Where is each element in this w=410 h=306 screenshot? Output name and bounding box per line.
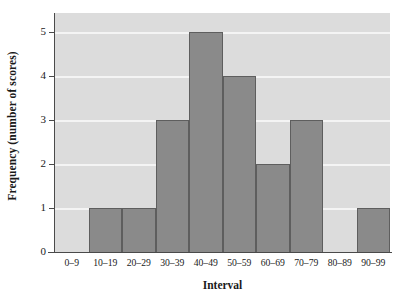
y-tick-mark: [49, 32, 54, 33]
x-axis-title: Interval: [55, 279, 390, 291]
bar-30-39: [156, 120, 190, 252]
y-tick-mark: [49, 76, 54, 77]
x-tick-label: 70–79: [290, 257, 324, 268]
bar-50-59: [223, 76, 257, 252]
x-tick-label: 20–29: [122, 257, 156, 268]
x-tick-label: 60–69: [256, 257, 290, 268]
x-tick-label: 90–99: [357, 257, 391, 268]
y-tick-label: 1: [30, 201, 46, 213]
y-tick-label: 3: [30, 113, 46, 125]
x-tick-label: 50–59: [223, 257, 257, 268]
x-axis-line: [48, 252, 392, 253]
bar-10-19: [89, 208, 123, 252]
x-tick-label: 80–89: [323, 257, 357, 268]
y-axis-title-text: Frequency (number of scores): [6, 51, 18, 200]
bar-90-99: [357, 208, 391, 252]
y-tick-label: 0: [30, 245, 46, 257]
y-tick-mark: [49, 252, 54, 253]
y-tick-label: 5: [30, 25, 46, 37]
y-tick-mark: [49, 120, 54, 121]
x-tick-label: 30–39: [156, 257, 190, 268]
bar-40-49: [189, 32, 223, 252]
y-tick-label: 4: [30, 69, 46, 81]
bar-20-29: [122, 208, 156, 252]
y-tick-label: 2: [30, 157, 46, 169]
y-axis-title: Frequency (number of scores): [0, 0, 24, 252]
x-tick-label: 40–49: [189, 257, 223, 268]
histogram-chart: Frequency (number of scores) Interval 01…: [0, 0, 410, 306]
bar-60-69: [256, 164, 290, 252]
y-axis-line: [54, 13, 55, 253]
bar-70-79: [290, 120, 324, 252]
y-tick-mark: [49, 208, 54, 209]
y-tick-mark: [49, 164, 54, 165]
plot-area: [55, 13, 390, 252]
gridline: [55, 32, 390, 34]
x-tick-label: 0–9: [55, 257, 89, 268]
x-tick-label: 10–19: [89, 257, 123, 268]
